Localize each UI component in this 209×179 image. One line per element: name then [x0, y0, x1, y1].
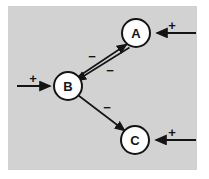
node-a[interactable]: A [122, 19, 150, 47]
network-diagram: A B C − − − + + + [0, 0, 209, 179]
sign-label-a-to-b: − [106, 63, 114, 78]
node-c[interactable]: C [121, 126, 149, 154]
edge-b-to-c [79, 96, 125, 131]
sign-label-input-b: + [29, 71, 37, 86]
edge-b-to-a [79, 45, 127, 77]
figure-canvas: A B C − − − + + + [0, 0, 209, 179]
sign-label-b-to-c: − [103, 100, 111, 115]
node-b-label: B [63, 79, 72, 94]
node-b[interactable]: B [54, 72, 82, 100]
sign-label-b-to-a: − [88, 49, 96, 64]
node-a-label: A [131, 26, 141, 41]
node-c-label: C [130, 133, 140, 148]
sign-label-input-c: + [168, 125, 176, 140]
sign-label-input-a: + [168, 18, 176, 33]
edge-a-to-b [77, 48, 130, 81]
